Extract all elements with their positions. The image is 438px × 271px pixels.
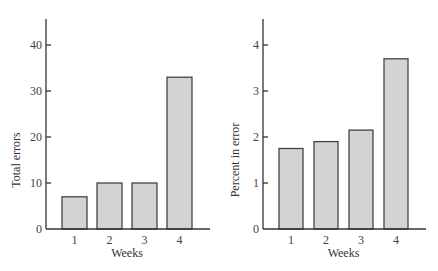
x-tick-label: 4 [177, 233, 183, 247]
y-tick-label: 1 [253, 176, 259, 190]
x-axis-label: Weeks [111, 246, 143, 260]
y-axis-label: Percent in error [228, 123, 242, 198]
bar-week-1 [279, 149, 303, 230]
bar-week-4 [167, 77, 192, 229]
bar-week-1 [62, 197, 87, 229]
y-tick-label: 20 [30, 130, 42, 144]
bar-week-3 [132, 183, 157, 229]
x-tick-label: 1 [288, 233, 294, 247]
x-axis-label: Weeks [328, 246, 360, 260]
y-tick-label: 30 [30, 84, 42, 98]
percent-in-error-chart: 123401234WeeksPercent in error [228, 19, 426, 260]
x-tick-label: 3 [358, 233, 364, 247]
y-tick-label: 0 [253, 222, 259, 236]
y-tick-label: 40 [30, 38, 42, 52]
x-tick-label: 1 [72, 233, 78, 247]
x-tick-label: 4 [393, 233, 399, 247]
charts-canvas: 1234010203040WeeksTotal errors 123401234… [0, 0, 438, 271]
bar-week-3 [349, 130, 373, 229]
bar-week-2 [314, 142, 338, 229]
y-axis-label: Total errors [9, 132, 23, 188]
x-tick-label: 2 [323, 233, 329, 247]
bar-week-2 [97, 183, 122, 229]
bar-week-4 [384, 59, 408, 229]
x-tick-label: 2 [107, 233, 113, 247]
y-tick-label: 4 [253, 38, 259, 52]
y-tick-label: 0 [36, 222, 42, 236]
total-errors-chart: 1234010203040WeeksTotal errors [9, 19, 210, 260]
x-tick-label: 3 [142, 233, 148, 247]
y-tick-label: 10 [30, 176, 42, 190]
y-tick-label: 3 [253, 84, 259, 98]
y-tick-label: 2 [253, 130, 259, 144]
